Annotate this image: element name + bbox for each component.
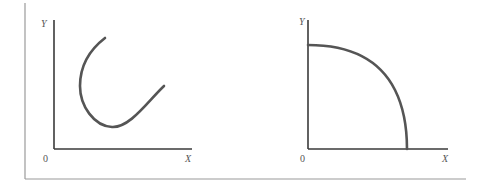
right-curve: [308, 45, 407, 149]
right-origin-label: 0: [300, 153, 305, 164]
right-panel: Y 0 X: [299, 16, 449, 164]
right-x-label: X: [441, 153, 449, 164]
left-origin-label: 0: [43, 153, 48, 164]
left-curve: [80, 38, 164, 127]
left-panel: Y 0 X: [41, 18, 192, 164]
right-y-label: Y: [299, 16, 306, 27]
left-y-label: Y: [41, 18, 48, 29]
left-x-label: X: [184, 153, 192, 164]
figure-canvas: Y 0 X Y 0 X: [0, 0, 490, 184]
